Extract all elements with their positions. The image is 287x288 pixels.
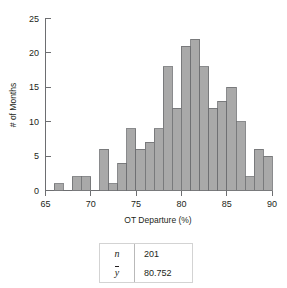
histogram-bar <box>54 184 63 191</box>
histogram-bar <box>127 129 136 191</box>
histogram-bar <box>209 108 218 191</box>
x-tick-label: 85 <box>222 199 232 209</box>
histogram-bar <box>245 177 254 191</box>
histogram-bar <box>145 142 154 190</box>
y-axis-tick-labels: 0 5 10 15 20 25 <box>29 14 39 196</box>
stat-value-ybar: 80.752 <box>135 263 193 282</box>
histogram-bar <box>109 184 118 191</box>
table-row: n 201 <box>100 244 192 263</box>
histogram-bar <box>218 101 227 190</box>
histogram-figure: 0 5 10 15 20 25 # of Months <box>0 0 287 288</box>
histogram-bar <box>236 122 245 191</box>
x-axis-tick-labels: 65 70 75 80 85 90 <box>40 199 277 209</box>
y-axis-title: # of Months <box>8 83 18 127</box>
histogram-bar <box>100 149 109 190</box>
table-row: y 80.752 <box>100 263 192 282</box>
x-tick-label: 80 <box>176 199 186 209</box>
histogram-bar <box>154 129 163 191</box>
histogram-bar <box>181 46 190 190</box>
histogram-bar <box>172 108 181 191</box>
y-tick-label: 5 <box>34 151 39 161</box>
histogram-bar <box>227 87 236 190</box>
histogram-bar <box>254 149 263 190</box>
x-tick-label: 75 <box>131 199 141 209</box>
histogram-bar <box>118 163 127 191</box>
x-axis-title: OT Departure (%) <box>124 215 192 225</box>
stats-summary-table: n 201 y 80.752 <box>99 243 193 283</box>
chart-plot-area: 0 5 10 15 20 25 # of Months <box>0 0 287 232</box>
y-tick-label: 10 <box>29 117 39 127</box>
y-axis-ticks <box>46 19 52 191</box>
histogram-bar <box>200 67 209 191</box>
histogram-bar <box>191 39 200 190</box>
y-tick-label: 25 <box>29 14 39 24</box>
y-tick-label: 15 <box>29 82 39 92</box>
y-bar-symbol: y <box>115 267 119 278</box>
histogram-bar <box>136 149 145 190</box>
stat-value-n: 201 <box>135 244 193 263</box>
y-tick-label: 20 <box>29 48 39 58</box>
histogram-bar <box>81 177 90 191</box>
x-axis-ticks <box>46 191 273 197</box>
stat-label-ybar: y <box>100 263 135 282</box>
x-tick-label: 70 <box>86 199 96 209</box>
histogram-bars <box>54 39 272 190</box>
stat-label-n: n <box>100 244 135 263</box>
histogram-bar <box>72 177 81 191</box>
histogram-bar <box>163 67 172 191</box>
x-tick-label: 65 <box>40 199 50 209</box>
x-tick-label: 90 <box>267 199 277 209</box>
y-tick-label: 0 <box>34 186 39 196</box>
histogram-bar <box>263 156 272 190</box>
histogram-svg: 0 5 10 15 20 25 # of Months <box>0 0 287 232</box>
